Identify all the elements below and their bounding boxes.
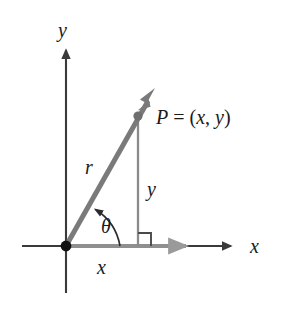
theta-label: θ [101,215,111,237]
point-p-dot [133,111,142,120]
point-p-label-x: x [195,106,205,128]
point-p-label-y: y [213,106,224,129]
vector-r-label: r [85,156,93,178]
polar-coordinate-diagram: y x r y x θ P = (x, y) [0,0,282,309]
x-axis-label: x [249,235,259,257]
point-p-label-equals: = [168,106,189,128]
axis-group [22,50,231,293]
leg-x-label: x [96,256,106,278]
vector-r-arrowhead-icon [138,88,156,111]
point-p-label-comma: , [205,106,215,128]
point-p-label: P = (x, y) [155,106,231,129]
point-p-label-close-paren: ) [224,106,231,129]
diagram-canvas: y x r y x θ P = (x, y) [0,0,282,309]
leg-y-label: y [145,178,156,201]
point-p-label-p: P [155,106,168,128]
y-axis-label: y [56,19,67,42]
origin-dot [61,241,72,252]
